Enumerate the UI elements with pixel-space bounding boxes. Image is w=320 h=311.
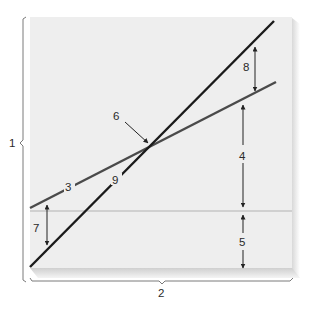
label-6: 6 (113, 110, 119, 122)
label-3: 3 (65, 181, 71, 193)
label-1: 1 (9, 137, 15, 149)
chart-panel (30, 17, 292, 268)
vertical-axis-bracket (20, 17, 26, 282)
label-5: 5 (239, 236, 245, 248)
label-8: 8 (243, 61, 249, 73)
label-9: 9 (112, 174, 118, 186)
label-7: 7 (33, 222, 39, 234)
diagram-canvas: 1 2 3 9 6 7 8 4 5 (0, 0, 320, 311)
label-2: 2 (158, 287, 164, 299)
horizontal-axis-bracket (30, 278, 293, 284)
label-4: 4 (239, 150, 246, 162)
